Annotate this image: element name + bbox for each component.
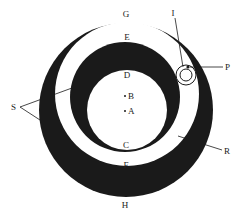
label-g: G: [123, 9, 130, 19]
leader-s-lower: [20, 107, 40, 120]
label-f: F: [123, 160, 128, 170]
label-p: P: [225, 62, 230, 72]
label-d: D: [124, 70, 131, 80]
label-a: A: [128, 106, 135, 116]
label-c: C: [123, 140, 129, 150]
diagram-canvas: G E D B A C F H I P S R: [0, 0, 241, 218]
point-b: [124, 95, 126, 97]
point-a: [124, 110, 126, 112]
label-e: E: [124, 32, 130, 42]
label-i: I: [172, 8, 175, 18]
label-s: S: [11, 102, 16, 112]
ring-diagram: G E D B A C F H I P S R: [0, 0, 241, 218]
label-h: H: [122, 200, 129, 210]
small-circles: [176, 65, 196, 85]
label-b: B: [128, 91, 134, 101]
label-r: R: [224, 146, 230, 156]
